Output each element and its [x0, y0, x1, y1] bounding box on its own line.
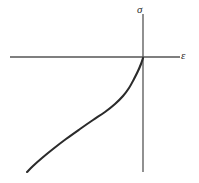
stress-strain-figure: σ ε: [0, 0, 199, 183]
vertical-axis-label: σ: [137, 4, 142, 15]
stress-strain-curve: [27, 58, 143, 172]
horizontal-axis-label: ε: [181, 50, 185, 61]
plot-canvas: [0, 0, 199, 183]
